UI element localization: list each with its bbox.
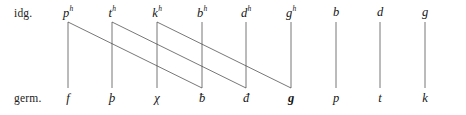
node-glyph: t [108,6,111,20]
node-glyph: þ [109,91,115,105]
node-glyph: χ [154,91,160,105]
node-glyph: ƀ [199,91,205,105]
sound-correspondence-diagram: idg. germ. phfthþkhχbhƀdhđghgbpdtgk [0,0,466,115]
node-bottom-2: χ [154,92,160,105]
node-glyph: t [378,91,381,105]
node-superscript: h [112,4,116,13]
node-glyph: p [63,6,69,20]
node-superscript: h [70,4,74,13]
node-bottom-0: f [66,92,69,105]
node-bottom-1: þ [109,92,115,105]
node-glyph: f [66,91,69,105]
node-bottom-7: t [378,92,381,105]
node-glyph: g [288,91,294,105]
node-glyph: d [241,6,247,20]
node-top-5: gh [286,6,296,20]
node-superscript: h [293,4,297,13]
node-top-2: kh [152,6,161,20]
node-bottom-8: k [422,92,428,105]
node-glyph: p [333,91,339,105]
diagonal-connector-1 [112,22,246,88]
node-top-8: g [422,6,428,19]
node-glyph: k [422,91,428,105]
node-superscript: h [158,4,162,13]
node-bottom-4: đ [243,92,249,105]
node-top-1: th [108,6,115,20]
node-bottom-3: ƀ [199,92,205,105]
node-top-6: b [333,6,339,19]
node-glyph: d [377,5,383,19]
node-glyph: g [422,5,428,19]
node-glyph: b [333,5,339,19]
node-top-0: ph [63,6,73,20]
node-superscript: h [204,4,208,13]
node-glyph: k [152,6,158,20]
node-top-4: dh [241,6,251,20]
node-superscript: h [248,4,252,13]
node-bottom-5: g [288,92,294,105]
node-glyph: g [286,6,292,20]
node-top-7: d [377,6,383,19]
node-glyph: b [197,6,203,20]
node-top-3: bh [197,6,207,20]
diagonal-connector-0 [68,22,202,88]
node-bottom-6: p [333,92,339,105]
diagonal-connector-2 [157,22,291,88]
node-glyph: đ [243,91,249,105]
